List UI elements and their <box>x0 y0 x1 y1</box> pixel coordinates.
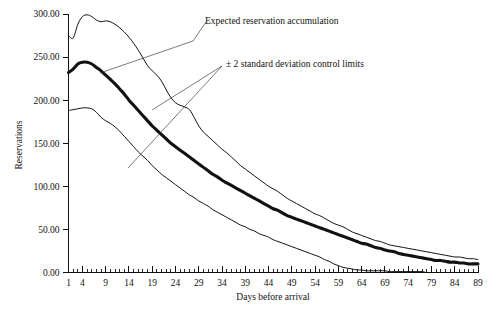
x-tick-label-2: 9 <box>103 278 108 288</box>
x-tick-label-8: 39 <box>241 278 251 288</box>
x-tick-label-3: 14 <box>124 278 134 288</box>
expected-annotation-label: Expected reservation accumulation <box>205 16 339 26</box>
x-tick-label-17: 84 <box>450 278 460 288</box>
x-tick-label-15: 74 <box>403 278 413 288</box>
x-tick-label-12: 59 <box>334 278 344 288</box>
y-tick-label-1: 50.00 <box>38 225 60 235</box>
x-tick-label-16: 79 <box>427 278 437 288</box>
chart-background <box>0 0 498 316</box>
y-axis-title: Reservations <box>14 120 24 169</box>
reservation-accumulation-chart: 0.0050.00100.00150.00200.00250.00300.00 … <box>0 0 498 316</box>
y-tick-label-5: 250.00 <box>33 52 59 62</box>
x-tick-label-0: 1 <box>66 278 71 288</box>
x-tick-label-7: 34 <box>217 278 227 288</box>
x-tick-label-13: 64 <box>357 278 367 288</box>
x-tick-label-10: 49 <box>287 278 297 288</box>
x-tick-label-1: 4 <box>80 278 85 288</box>
y-tick-label-2: 100.00 <box>33 182 59 192</box>
x-tick-label-11: 54 <box>310 278 320 288</box>
chart-figure: 0.0050.00100.00150.00200.00250.00300.00 … <box>0 0 498 316</box>
x-tick-label-6: 29 <box>194 278 204 288</box>
x-tick-label-4: 19 <box>148 278 158 288</box>
y-tick-label-3: 150.00 <box>33 139 59 149</box>
x-tick-label-18: 89 <box>473 278 483 288</box>
x-axis-title: Days before arrival <box>236 292 310 302</box>
y-tick-label-0: 0.00 <box>43 268 60 278</box>
x-tick-label-9: 44 <box>264 278 274 288</box>
x-tick-label-5: 24 <box>171 278 181 288</box>
y-tick-label-6: 300.00 <box>33 9 59 19</box>
y-tick-label-4: 200.00 <box>33 96 59 106</box>
x-tick-label-14: 69 <box>380 278 390 288</box>
control-limits-annotation-label: ± 2 standard deviation control limits <box>226 59 364 69</box>
